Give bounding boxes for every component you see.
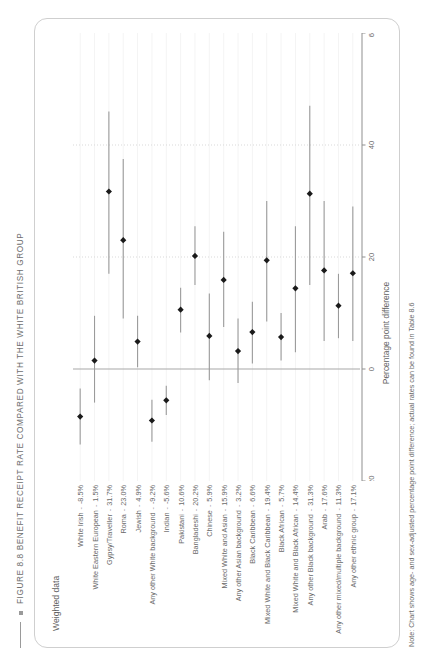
category-label: Any other Asian background-3.2% — [234, 485, 243, 601]
figure-card: Weighted data White Irish--8.5%White Eas… — [34, 18, 400, 648]
category-label: Pakistani-10.6% — [176, 485, 185, 544]
legend-label: Weighted data — [51, 576, 61, 631]
data-point-group — [307, 106, 313, 285]
data-marker — [335, 303, 341, 309]
data-point-group — [163, 386, 169, 415]
category-label: Bangladeshi-20.2% — [190, 485, 199, 554]
category-label: Indian--5.6% — [162, 485, 171, 532]
data-marker — [134, 338, 140, 344]
data-marker — [221, 277, 227, 283]
data-point-group — [221, 232, 227, 327]
category-label: Black Caribbean-6.6% — [248, 485, 257, 564]
data-marker — [178, 307, 184, 313]
data-point-group — [178, 288, 184, 333]
category-label: Black African-5.7% — [277, 485, 286, 552]
data-point-group — [149, 400, 155, 442]
data-point-group — [249, 302, 255, 364]
square-bullet-icon — [19, 611, 23, 615]
category-label: White Eastern European-1.5% — [90, 485, 99, 590]
category-label: Any other ethnic group-17.1% — [348, 485, 357, 588]
category-axis-labels: White Irish--8.5%White Eastern European-… — [67, 481, 380, 633]
category-label: Mixed White and Black African-14.4% — [291, 485, 300, 613]
category-label: Any other mixed/multiple background-11.3… — [334, 485, 343, 634]
data-point-group — [264, 201, 270, 321]
data-marker — [192, 253, 198, 259]
category-label: Any other Black background-31.3% — [305, 485, 314, 605]
figure-header: FIGURE 8.8 BENEFIT RECEIPT RATE COMPARED… — [16, 18, 25, 648]
category-label: Chinese-5.9% — [205, 485, 214, 537]
figure-page: FIGURE 8.8 BENEFIT RECEIPT RATE COMPARED… — [0, 0, 430, 666]
category-label: Gypsy/Traveller-31.7% — [104, 485, 113, 565]
data-point-group — [235, 319, 241, 383]
category-label: Roma-23.0% — [119, 485, 128, 534]
dot-whisker-chart: -200204060 — [67, 33, 380, 481]
data-point-group — [335, 274, 341, 338]
x-tick-label: 0 — [367, 367, 376, 371]
data-point-group — [206, 293, 212, 380]
data-point-group — [192, 226, 198, 285]
data-point-group — [292, 226, 298, 352]
chart-canvas: -200204060 — [67, 33, 380, 481]
data-marker — [350, 270, 356, 276]
data-point-group — [77, 389, 83, 445]
x-tick-label: 60 — [367, 33, 376, 37]
x-tick-label: 40 — [367, 141, 376, 149]
figure-note: Note: Chart shows age- and sex-adjusted … — [407, 18, 416, 648]
legend: Weighted data — [45, 33, 63, 633]
data-point-group — [321, 201, 327, 341]
data-marker — [206, 333, 212, 339]
x-tick-label: 20 — [367, 253, 376, 261]
data-point-group — [120, 159, 126, 319]
x-tick-label: -20 — [367, 476, 376, 481]
category-label: Mixed White and Black Caribbean-19.4% — [262, 485, 271, 624]
data-marker — [77, 414, 83, 420]
data-marker — [163, 397, 169, 403]
header-rule-icon — [20, 622, 21, 648]
figure-title: FIGURE 8.8 BENEFIT RECEIPT RATE COMPARED… — [16, 233, 25, 604]
data-point-group — [278, 313, 284, 361]
data-point-group — [350, 207, 356, 341]
data-point-group — [91, 316, 97, 403]
category-label: Any other White background--9.2% — [147, 485, 156, 605]
data-marker — [235, 348, 241, 354]
data-marker — [106, 188, 112, 194]
category-label: Mixed White and Asian-15.9% — [219, 485, 228, 588]
x-axis-title: Percentage point difference — [381, 33, 391, 633]
data-marker — [321, 267, 327, 273]
category-label: Arab-17.6% — [320, 485, 329, 530]
data-marker — [264, 257, 270, 263]
data-marker — [120, 237, 126, 243]
data-point-group — [134, 316, 140, 368]
data-marker — [149, 417, 155, 423]
data-marker — [307, 191, 313, 197]
plot-area: White Irish--8.5%White Eastern European-… — [67, 33, 380, 633]
category-label: White Irish--8.5% — [76, 485, 85, 547]
data-marker — [278, 334, 284, 340]
data-marker — [91, 358, 97, 364]
data-marker — [249, 329, 255, 335]
data-marker — [292, 285, 298, 291]
data-point-group — [106, 111, 112, 273]
category-label: Jewish-4.9% — [133, 485, 142, 532]
